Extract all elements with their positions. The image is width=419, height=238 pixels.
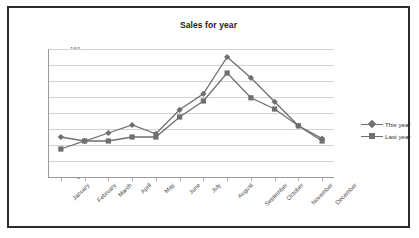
- plot-area: [49, 49, 334, 177]
- legend-key-square-icon: [361, 131, 383, 141]
- x-axis-line: [48, 177, 334, 178]
- x-axis-tick-label: February: [96, 182, 117, 203]
- legend-label: This year: [383, 121, 410, 128]
- data-point-marker: [296, 123, 301, 128]
- x-axis-tick-label: November: [310, 182, 334, 206]
- x-axis-tick-label: June: [187, 182, 200, 195]
- chart-title: Sales for year: [9, 20, 408, 30]
- data-point-marker: [130, 134, 135, 139]
- series-line: [61, 57, 322, 141]
- data-point-marker: [129, 122, 135, 128]
- data-point-marker: [177, 114, 182, 119]
- x-axis-tick-label: April: [140, 182, 153, 195]
- legend-key-diamond-icon: [361, 119, 383, 129]
- data-point-marker: [58, 134, 64, 140]
- legend-marker: [368, 120, 376, 128]
- x-axis-tick-label: January: [71, 182, 90, 201]
- data-point-marker: [201, 98, 206, 103]
- data-point-marker: [58, 146, 63, 151]
- data-point-marker: [106, 138, 111, 143]
- chart-container: Sales for year 160140120100806040200 Jan…: [9, 8, 408, 226]
- data-point-marker: [105, 130, 111, 136]
- legend-item[interactable]: This year: [361, 118, 419, 130]
- legend-label: Last year: [383, 133, 410, 140]
- data-point-marker: [225, 70, 230, 75]
- data-point-marker: [82, 138, 87, 143]
- x-axis-tick-label: July: [211, 182, 223, 194]
- x-axis-tick-label: August: [237, 182, 254, 199]
- data-point-marker: [320, 138, 325, 143]
- x-axis-tick-label: September: [263, 182, 288, 207]
- data-point-marker: [272, 106, 277, 111]
- legend-item[interactable]: Last year: [361, 130, 419, 142]
- x-axis-tick-label: May: [163, 182, 175, 194]
- x-axis-tick-label: March: [117, 182, 133, 198]
- chart-frame: Sales for year 160140120100806040200 Jan…: [7, 6, 410, 228]
- legend-marker: [369, 133, 375, 139]
- data-point-marker: [248, 95, 253, 100]
- chart-legend: This yearLast year: [361, 118, 419, 142]
- data-series-lines: [49, 49, 334, 177]
- x-axis-tick-label: December: [334, 182, 358, 206]
- data-point-marker: [153, 134, 158, 139]
